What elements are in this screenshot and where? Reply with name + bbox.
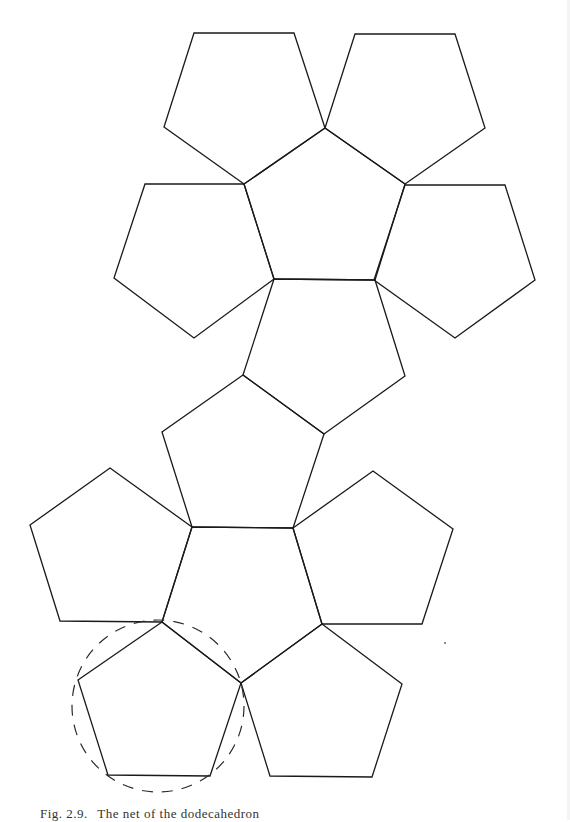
- pentagon-face-middle-left: [114, 184, 274, 338]
- pentagon-face-bottom-right: [241, 624, 402, 777]
- pentagon-face-center-upper-link: [243, 279, 405, 434]
- pentagon-face-top-left: [164, 33, 325, 184]
- figure-caption: Fig. 2.9. The net of the dodecahedron: [40, 806, 260, 822]
- pentagon-face-bottom-left: [78, 622, 241, 776]
- caption-text: The net of the dodecahedron: [97, 806, 259, 821]
- pentagon-face-lower-center: [162, 527, 322, 683]
- pentagon-face-center-lower-link: [162, 375, 324, 528]
- pentagon-faces: [30, 33, 535, 777]
- print-speck: [444, 642, 446, 644]
- pentagon-face-top-right: [325, 34, 485, 184]
- pentagon-face-lower-right: [293, 471, 453, 624]
- dashed-highlight-circle: [72, 620, 244, 792]
- pentagon-face-middle-right: [374, 185, 535, 338]
- pentagon-face-lower-left: [30, 468, 192, 622]
- caption-label: Fig. 2.9.: [40, 806, 88, 821]
